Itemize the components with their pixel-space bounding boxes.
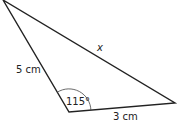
side-label-left: 5 cm xyxy=(16,65,41,75)
angle-label: 115° xyxy=(66,97,90,107)
triangle-diagram: 5 cm 3 cm x 115° xyxy=(0,0,180,129)
side-label-bottom: 3 cm xyxy=(113,112,138,122)
side-label-hypotenuse: x xyxy=(97,43,103,53)
